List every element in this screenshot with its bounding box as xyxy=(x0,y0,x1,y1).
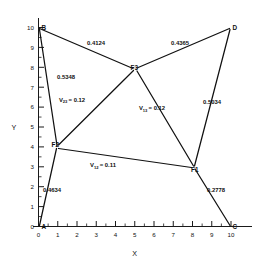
x-tick-label: 4 xyxy=(114,231,118,238)
node-label-f2: F2 xyxy=(52,141,60,148)
y-tick-label: 2 xyxy=(31,183,35,190)
y-tick-label: 8 xyxy=(31,64,35,71)
network-plot: 0 1 2 3 4 5 6 7 8 9 10 xyxy=(0,0,262,268)
x-tick-label: 10 xyxy=(228,231,235,238)
x-tick-label: 3 xyxy=(95,231,99,238)
edge-label-f1-f3-sub: 13 xyxy=(143,108,148,113)
edge-c-f1 xyxy=(195,169,230,226)
edge-f2-f1 xyxy=(59,149,192,168)
edge-label-a-f2: 0.4634 xyxy=(43,187,62,193)
y-tick-label: 10 xyxy=(27,24,34,31)
x-tick-label: 8 xyxy=(191,231,195,238)
edge-label-f2-f3-sub: 23 xyxy=(63,99,68,104)
edge-label-d-f1: 0.5034 xyxy=(203,99,222,105)
node-label-group: A B C D F1 F2 F3 xyxy=(42,24,238,230)
x-tick-label: 0 xyxy=(37,231,41,238)
y-tick-label: 5 xyxy=(31,123,35,130)
x-axis-title: X xyxy=(132,249,137,258)
edge-f1-f3 xyxy=(137,71,194,166)
y-tick-label: 9 xyxy=(31,44,35,51)
y-tick-label: 6 xyxy=(31,103,35,110)
node-label-a: A xyxy=(42,223,47,230)
edge-label-f2-f1-eq: = 0.11 xyxy=(100,162,117,168)
figure-root: 0 1 2 3 4 5 6 7 8 9 10 xyxy=(0,0,262,268)
x-tick-label: 1 xyxy=(56,231,60,238)
node-label-f3: F3 xyxy=(131,64,139,71)
axes-group xyxy=(33,18,252,227)
edge-label-b-f2: 0.5348 xyxy=(57,74,76,80)
node-label-b: B xyxy=(42,24,47,31)
edge-label-f2-f1: V12= 0.11 xyxy=(90,162,117,170)
y-tick-label: 7 xyxy=(31,84,35,91)
x-tick-label: 7 xyxy=(172,231,176,238)
node-label-c: C xyxy=(233,223,238,230)
node-label-d: D xyxy=(233,24,238,31)
node-label-f1: F1 xyxy=(191,166,199,173)
edge-f2-f3 xyxy=(59,71,134,146)
edge-d-f3 xyxy=(137,29,230,69)
y-tick-label: 4 xyxy=(31,143,35,150)
y-tick-label: 1 xyxy=(31,203,35,210)
edge-label-f1-f3-eq: = 0.12 xyxy=(149,105,166,111)
y-tick-label-group: 0 1 2 3 4 5 6 7 8 9 10 xyxy=(27,24,34,230)
edge-label-c-f1: 0.2778 xyxy=(207,187,226,193)
x-tick-label-group: 0 1 2 3 4 5 6 7 8 9 10 xyxy=(37,231,235,238)
edge-label-f2-f3: V23= 0.12 xyxy=(59,97,86,105)
edges-group xyxy=(40,29,231,226)
x-tick-label: 2 xyxy=(75,231,79,238)
x-tick-label: 9 xyxy=(210,231,214,238)
x-tick-group xyxy=(39,221,232,227)
edge-b-f3 xyxy=(40,29,134,69)
svg-text:V23= 0.12: V23= 0.12 xyxy=(59,97,86,105)
x-tick-label: 6 xyxy=(152,231,156,238)
edge-label-f2-f1-sub: 12 xyxy=(94,165,99,170)
svg-text:V12= 0.11: V12= 0.11 xyxy=(90,162,117,170)
y-tick-label: 3 xyxy=(31,163,35,170)
y-axis-title: Y xyxy=(12,123,17,132)
edge-d-f1 xyxy=(195,30,231,167)
edge-label-d-f3: 0.4365 xyxy=(171,40,190,46)
x-tick-label: 5 xyxy=(133,231,137,238)
y-tick-label: 0 xyxy=(31,223,35,230)
edge-label-b-f3: 0.4124 xyxy=(87,40,106,46)
edge-label-f2-f3-eq: = 0.12 xyxy=(69,97,86,103)
